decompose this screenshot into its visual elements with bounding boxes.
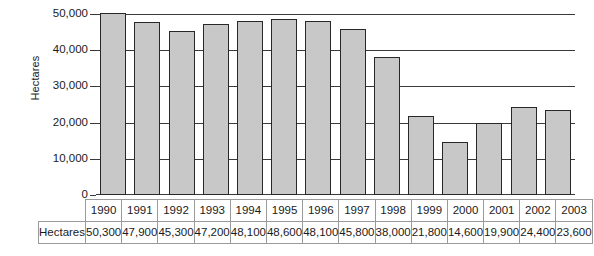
table-year-cell: 1994 [230,200,266,222]
table-year-cell: 2002 [520,200,556,222]
table-year-cell: 2000 [447,200,483,222]
table-value-cell: 21,800 [411,222,447,244]
table-value-cell: 47,200 [194,222,230,244]
bar-1994 [237,21,263,195]
bar-1992 [169,31,195,195]
bar-1999 [408,116,434,195]
table-year-cell: 1992 [158,200,194,222]
table-row-values: Hectares 50,30047,90045,30047,20048,1004… [39,222,593,244]
plot-area [96,14,575,195]
table-value-cell: 38,000 [375,222,411,244]
table-year-cell: 1998 [375,200,411,222]
table-value-cell: 19,900 [484,222,520,244]
bar-1991 [134,22,160,195]
y-axis-tick-label: 40,000 [34,44,88,55]
y-axis-tick [90,195,96,196]
data-table: 1990199119921993199419951996199719981999… [38,199,593,244]
table-year-cell: 1995 [266,200,302,222]
table-years-rowlabel-spacer [39,200,86,222]
table-year-cell: 1999 [411,200,447,222]
table-value-cell: 23,600 [556,222,592,244]
table-value-cell: 48,100 [303,222,339,244]
table-year-cell: 2001 [484,200,520,222]
table-value-cell: 45,800 [339,222,375,244]
y-axis-tick [90,14,96,15]
bar-chart-figure: Hectares 010,00020,00030,00040,00050,000… [0,0,594,256]
y-axis-tick [90,123,96,124]
bar-2001 [476,123,502,195]
table-row-years: 1990199119921993199419951996199719981999… [39,200,593,222]
table-year-cell: 1991 [122,200,158,222]
y-axis-tick [90,86,96,87]
y-axis-tick [90,50,96,51]
y-axis-tick [90,159,96,160]
table-value-cell: 47,900 [122,222,158,244]
table-year-cell: 1997 [339,200,375,222]
table-year-cell: 2003 [556,200,592,222]
table-value-cell: 45,300 [158,222,194,244]
table-year-cell: 1990 [86,200,122,222]
bar-2003 [545,110,571,195]
gridline [96,14,575,15]
bar-2000 [442,142,468,195]
y-axis-tick-label: 50,000 [34,8,88,19]
bar-1997 [340,29,366,195]
table-value-cell: 48,600 [266,222,302,244]
table-value-cell: 50,300 [86,222,122,244]
bar-1995 [271,19,297,195]
bar-1998 [374,57,400,195]
table-row-label: Hectares [39,222,86,244]
table-value-cell: 24,400 [520,222,556,244]
bar-2002 [511,107,537,195]
table-year-cell: 1996 [303,200,339,222]
table-value-cell: 48,100 [230,222,266,244]
bar-1993 [203,24,229,195]
bar-1996 [305,21,331,195]
table-year-cell: 1993 [194,200,230,222]
y-axis-tick-label: 10,000 [34,153,88,164]
bar-1990 [100,13,126,195]
y-axis-tick-label: 20,000 [34,117,88,128]
y-axis-tick-label: 30,000 [34,80,88,91]
table-value-cell: 14,600 [447,222,483,244]
